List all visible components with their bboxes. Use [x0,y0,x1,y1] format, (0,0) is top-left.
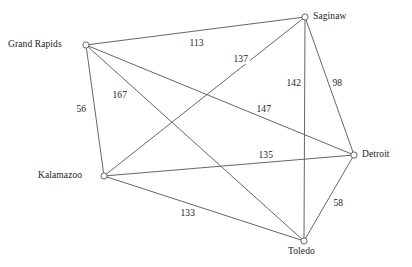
edge-sag-tol [304,20,305,238]
edge-weight-sag-det: 98 [331,78,344,88]
edge-weight-gr-det: 147 [255,104,273,114]
edge-gr-det [89,46,351,154]
edge-weight-det-tol: 58 [332,198,345,208]
node-toledo[interactable] [301,238,307,244]
edge-det-tol [306,158,353,239]
node-grand-rapids[interactable] [83,42,89,48]
node-kalamazoo[interactable] [101,173,107,179]
edge-weight-kal-det: 135 [257,150,275,160]
node-label-toledo: Toledo [288,246,315,256]
node-label-detroit: Detroit [362,149,390,159]
edge-kal-det [107,155,351,175]
edge-weight-kal-tol: 133 [179,208,197,218]
edge-sag-det [306,20,353,152]
edges-group [86,17,353,240]
node-label-saginaw: Saginaw [313,11,346,21]
node-saginaw[interactable] [302,14,308,20]
edge-weight-sag-tol: 142 [285,78,303,88]
edge-weight-gr-tol: 167 [111,90,129,100]
node-label-kalamazoo: Kalamazoo [38,170,82,180]
node-detroit[interactable] [351,152,357,158]
edge-weight-gr-kal: 56 [75,104,88,114]
node-label-grand-rapids: Grand Rapids [8,39,62,49]
edge-weight-kal-sag: 137 [232,54,250,64]
edge-kal-tol [107,177,301,240]
edge-gr-kal [86,48,103,173]
edge-weight-gr-sag: 113 [188,38,205,48]
